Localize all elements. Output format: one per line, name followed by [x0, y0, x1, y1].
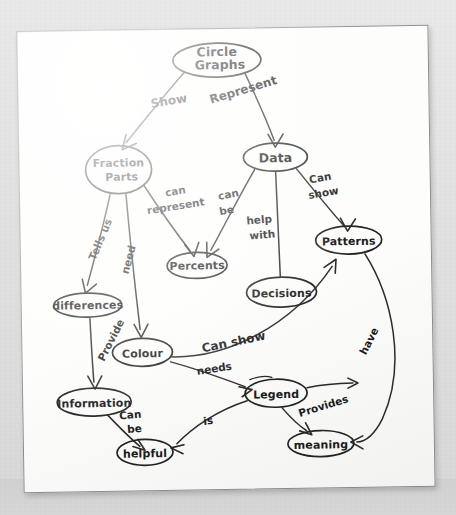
edge-label-is: is [202, 414, 213, 427]
node-meaning[interactable]: meaning [288, 430, 354, 457]
edge-label-can-represent-line1: can [164, 183, 186, 198]
photo-canvas: Circle Graphs Fraction Parts Data Percen… [0, 0, 456, 515]
edge-label-can-be-percents-line2: be [218, 203, 235, 218]
node-label-data: Data [258, 150, 292, 166]
edge-legend-stub [307, 378, 358, 389]
node-label-helpful: helpful [123, 447, 167, 461]
edge-label-needs-text: needs [196, 360, 233, 377]
node-label-patterns: Patterns [322, 235, 376, 249]
edge-label-can-be-percents-line1: can [217, 186, 240, 202]
edge-patterns-meaning [348, 253, 396, 449]
node-label-differences: differences [52, 299, 124, 313]
node-label-fraction-parts-line1: Fraction [93, 156, 145, 170]
edge-label-can-show-colour: Can show [200, 328, 267, 355]
node-label-legend: Legend [253, 388, 299, 402]
edge-label-can-represent-line2: represent [146, 195, 205, 216]
node-circle-graphs[interactable]: Circle Graphs [173, 42, 262, 77]
paper-sheet: Circle Graphs Fraction Parts Data Percen… [16, 25, 435, 493]
edge-label-represent: Represent [208, 73, 280, 107]
node-label-decisions: Decisions [251, 287, 312, 301]
node-legend[interactable]: Legend [245, 379, 307, 408]
edge-label-can-be-helpful: Can be [119, 408, 143, 436]
node-differences[interactable]: differences [52, 293, 124, 318]
edge-label-can-represent: can represent [146, 183, 206, 216]
edge-legend-helpful [170, 401, 248, 454]
edge-label-tells-us-text: Tells us [86, 217, 114, 262]
edge-label-is-text: is [202, 414, 213, 427]
node-percents[interactable]: Percents [167, 252, 227, 279]
edge-label-can-show-colour-text: Can show [200, 328, 266, 355]
edge-data-decisions [276, 172, 281, 276]
node-label-colour: Colour [122, 347, 163, 361]
edge-label-can-be-helpful-line2: be [127, 422, 143, 435]
node-label-fraction-parts-line2: Parts [105, 170, 138, 184]
node-helpful[interactable]: helpful [117, 439, 173, 466]
node-colour[interactable]: Colour [112, 338, 172, 367]
edge-label-tells-us: Tells us [85, 217, 114, 262]
concept-map: Circle Graphs Fraction Parts Data Percen… [16, 25, 435, 493]
edge-label-can-be-helpful-line1: Can [119, 408, 142, 422]
edge-label-help-with: help with [246, 212, 276, 241]
node-decisions[interactable]: Decisions [246, 277, 316, 308]
edge-label-show: Show [150, 91, 189, 111]
node-fraction-parts[interactable]: Fraction Parts [85, 145, 152, 194]
node-label-percents: Percents [169, 259, 225, 273]
edge-label-have-text: have [357, 325, 381, 356]
edge-label-need: need [118, 244, 138, 276]
edge-label-represent-text: Represent [208, 73, 279, 107]
edge-label-can-show-data: Can show [307, 170, 340, 201]
edge-label-can-show-data-line1: Can [308, 170, 332, 186]
edge-circlegraphs-fractionparts [121, 73, 185, 150]
edge-label-help-with-line1: help [246, 212, 273, 226]
edge-label-help-with-line2: with [249, 227, 276, 241]
node-label-circle-graphs-line2: Graphs [194, 57, 245, 73]
edge-label-show-text: Show [150, 91, 188, 111]
edge-label-need-text: need [119, 244, 138, 275]
node-label-meaning: meaning [294, 438, 349, 452]
edge-label-provides: Provides [297, 392, 350, 419]
edge-label-can-show-data-line2: show [307, 184, 340, 201]
edge-label-needs: needs [196, 360, 233, 377]
edge-label-provides-text: Provides [297, 392, 350, 418]
edge-label-have: have [357, 325, 381, 356]
